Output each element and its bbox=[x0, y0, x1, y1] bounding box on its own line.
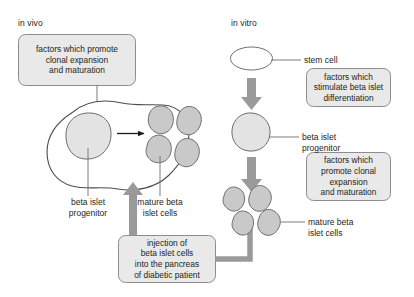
in-vitro-progenitor-cell bbox=[232, 113, 270, 151]
in-vitro-mature-label: mature betaislet cells bbox=[308, 217, 353, 238]
in-vitro-mature-cell-2 bbox=[249, 185, 272, 211]
in-vivo-progenitor-label: beta isletprogenitor bbox=[48, 197, 128, 218]
in-vitro-mature-cell-4 bbox=[258, 209, 281, 235]
in-vitro-mature-cell-3 bbox=[232, 211, 254, 235]
diagram-vector-layer bbox=[0, 0, 414, 297]
in-vitro-differentiation-box bbox=[307, 69, 391, 107]
in-vivo-panel-label: in vivo bbox=[18, 18, 43, 28]
injection-box bbox=[119, 236, 216, 283]
in-vivo-progenitor-cell bbox=[66, 113, 111, 159]
in-vitro-expansion-box bbox=[307, 153, 391, 201]
in-vivo-factors-box bbox=[19, 35, 136, 86]
diagram-canvas: in vivo in vitro factors which promotecl… bbox=[0, 0, 414, 297]
in-vivo-mature-cell-4 bbox=[175, 138, 200, 166]
in-vivo-mature-cell-2 bbox=[177, 106, 202, 134]
stem-cell-label: stem cell bbox=[304, 55, 338, 66]
stem-cell bbox=[231, 47, 273, 70]
in-vitro-mature-cell-1 bbox=[223, 187, 245, 211]
in-vivo-mature-cell-1 bbox=[148, 106, 173, 134]
in-vitro-panel-label: in vitro bbox=[231, 18, 257, 28]
in-vivo-mature-label: mature betaislet cells bbox=[120, 197, 200, 218]
in-vitro-progenitor-label: beta isletprogenitor bbox=[302, 132, 340, 153]
in-vivo-mature-cell-3 bbox=[146, 135, 171, 163]
differentiation-arrow bbox=[241, 78, 262, 110]
